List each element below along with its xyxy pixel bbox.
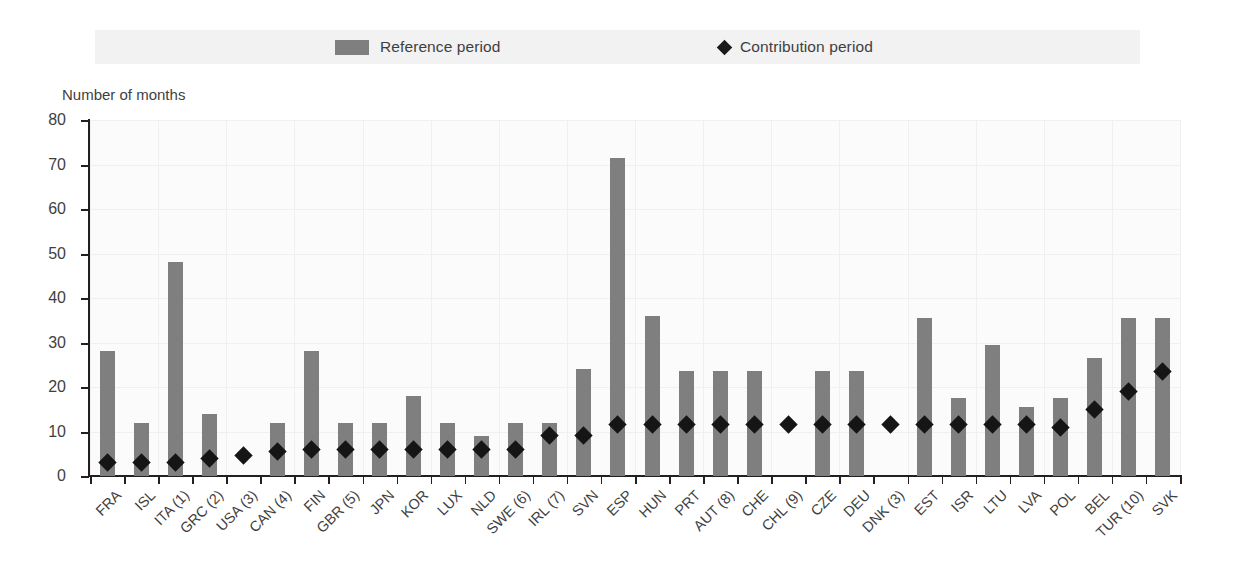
x-axis-tick [1146, 477, 1148, 484]
chart-legend: Reference period Contribution period [95, 30, 1140, 64]
x-axis-tick [260, 477, 262, 484]
plot-area [90, 120, 1180, 476]
x-axis-tick [601, 477, 603, 484]
legend-item-reference-period: Reference period [335, 38, 501, 56]
x-axis-tick [771, 477, 773, 484]
x-axis-tick [465, 477, 467, 484]
gridline-vertical [635, 120, 636, 476]
y-axis-tick [81, 343, 89, 345]
x-axis-tick [328, 477, 330, 484]
bar-svn [576, 369, 591, 476]
legend-item-contribution-period: Contribution period [715, 38, 873, 56]
gridline-vertical [363, 120, 364, 476]
x-axis-label-isr: ISR [948, 487, 976, 515]
y-axis-tick [81, 254, 89, 256]
gridline-vertical [771, 120, 772, 476]
x-axis-tick [1010, 477, 1012, 484]
bar-pol [1053, 398, 1068, 476]
x-axis-tick [942, 477, 944, 484]
x-axis-tick [158, 477, 160, 484]
bar-hun [645, 316, 660, 476]
x-axis-tick [567, 477, 569, 484]
gridline-vertical [703, 120, 704, 476]
x-axis-label-kor: KOR [397, 487, 431, 521]
x-axis-label-cze: CZE [808, 487, 840, 519]
y-axis-tick-label: 40 [26, 289, 66, 307]
x-axis-label-jpn: JPN [366, 487, 397, 518]
x-axis-tick [192, 477, 194, 484]
gridline-vertical [158, 120, 159, 476]
legend-diamond-swatch-icon [717, 39, 733, 55]
bar-isr [951, 398, 966, 476]
gridline-vertical [1180, 120, 1181, 476]
y-axis-title: Number of months [62, 86, 185, 103]
x-axis-label-lux: LUX [434, 487, 465, 518]
x-axis-tick [397, 477, 399, 484]
bar-svk [1155, 318, 1170, 476]
x-axis-label-fin: FIN [301, 487, 329, 515]
gridline-vertical [908, 120, 909, 476]
x-axis-label-pol: POL [1046, 487, 1078, 519]
x-axis-label-lva: LVA [1015, 487, 1044, 516]
legend-bar-swatch-icon [335, 40, 369, 55]
x-axis-tick [1044, 477, 1046, 484]
y-axis-tick [81, 165, 89, 167]
y-axis-tick-label: 70 [26, 156, 66, 174]
x-axis-tick [499, 477, 501, 484]
bar-ltu [985, 345, 1000, 476]
gridline-vertical [226, 120, 227, 476]
x-axis-label-fra: FRA [93, 487, 125, 519]
gridline-vertical [839, 120, 840, 476]
gridline-vertical [294, 120, 295, 476]
x-axis-label-ltu: LTU [980, 487, 1010, 517]
y-axis-tick-label: 60 [26, 200, 66, 218]
x-axis-tick [1112, 477, 1114, 484]
x-axis-label-esp: ESP [603, 487, 635, 519]
x-axis-tick [839, 477, 841, 484]
x-axis-label-svk: SVK [1148, 487, 1180, 519]
bar-ita-1 [168, 262, 183, 476]
x-axis-tick [226, 477, 228, 484]
y-axis-tick [81, 432, 89, 434]
gridline-vertical [567, 120, 568, 476]
y-axis-tick-label: 80 [26, 111, 66, 129]
x-axis-label-irl-7: IRL (7) [525, 487, 567, 529]
x-axis-label-hun: HUN [636, 487, 670, 521]
y-axis-tick [81, 476, 89, 478]
legend-label-reference-period: Reference period [380, 38, 501, 56]
x-axis-tick [908, 477, 910, 484]
x-axis-tick [124, 477, 126, 484]
gridline-vertical [1044, 120, 1045, 476]
gridline-vertical [90, 120, 91, 476]
x-axis-tick [431, 477, 433, 484]
x-axis-tick [976, 477, 978, 484]
x-axis-tick [635, 477, 637, 484]
x-axis-label-est: EST [911, 487, 942, 518]
x-axis-tick [669, 477, 671, 484]
gridline-vertical [499, 120, 500, 476]
x-axis-tick [1180, 477, 1182, 484]
y-axis-tick-label: 30 [26, 334, 66, 352]
gridline-vertical [976, 120, 977, 476]
x-axis-tick [363, 477, 365, 484]
gridline-vertical [431, 120, 432, 476]
x-axis-tick [1078, 477, 1080, 484]
bar-est [917, 318, 932, 476]
x-axis-label-svn: SVN [569, 487, 601, 519]
x-axis-tick [533, 477, 535, 484]
y-axis-tick-label: 10 [26, 423, 66, 441]
y-axis-tick [81, 387, 89, 389]
y-axis-tick-label: 20 [26, 378, 66, 396]
y-axis-tick-label: 0 [26, 467, 66, 485]
x-axis-tick [294, 477, 296, 484]
x-axis-tick [873, 477, 875, 484]
x-axis-tick [805, 477, 807, 484]
x-axis-label-isl: ISL [132, 487, 159, 514]
y-axis-tick [81, 120, 89, 122]
legend-label-contribution-period: Contribution period [740, 38, 873, 56]
gridline-vertical [1112, 120, 1113, 476]
y-axis-tick [81, 298, 89, 300]
x-axis-tick [737, 477, 739, 484]
y-axis-tick-label: 50 [26, 245, 66, 263]
y-axis-tick [81, 209, 89, 211]
